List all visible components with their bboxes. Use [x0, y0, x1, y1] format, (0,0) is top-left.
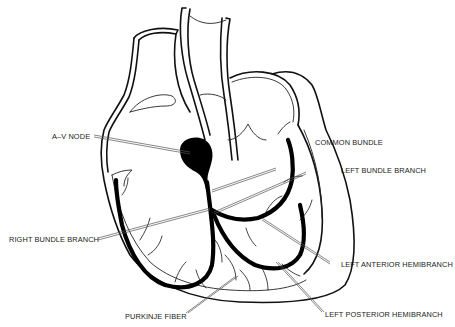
- label-left-anterior-hemibranch: LEFT ANTERIOR HEMIBRANCH: [341, 261, 453, 268]
- label-common-bundle: COMMON BUNDLE: [315, 139, 383, 146]
- label-right-bundle-branch: RIGHT BUNDLE BRANCH: [9, 236, 99, 243]
- conduction-system: [116, 138, 304, 288]
- purkinje-twigs: [122, 176, 312, 290]
- heart-conduction-diagram: [0, 0, 455, 327]
- label-left-bundle-branch: LEFT BUNDLE BRANCH: [341, 167, 426, 174]
- label-purkinje-fiber: PURKINJE FIBER: [125, 313, 187, 320]
- label-av-node: A–V NODE: [52, 133, 90, 140]
- label-left-posterior-hemibranch: LEFT POSTERIOR HEMIBRANCH: [325, 311, 443, 318]
